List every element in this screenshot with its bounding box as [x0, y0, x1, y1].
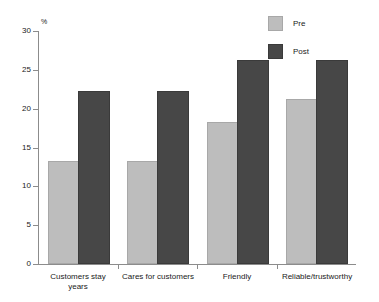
legend-label-pre: Pre [293, 20, 305, 28]
legend-label-post: Post [293, 48, 309, 56]
y-tick-mark [33, 148, 39, 149]
y-tick-label: 5 [0, 221, 31, 229]
legend-item-post: Post [268, 44, 309, 59]
y-tick-label: 15 [0, 144, 31, 152]
chart-legend: Pre Post [268, 16, 309, 72]
x-tick-mark [277, 264, 278, 269]
bar-post-3 [316, 60, 348, 264]
legend-item-pre: Pre [268, 16, 309, 31]
y-tick-mark [33, 225, 39, 226]
y-tick-mark [33, 186, 39, 187]
y-tick-label: 10 [0, 182, 31, 190]
y-tick-label: 25 [0, 66, 31, 74]
category-label-0: Customers stayyears [38, 272, 118, 292]
category-label-line: Customers stay [38, 272, 118, 282]
bar-post-1 [157, 91, 189, 264]
y-tick-label: 0 [0, 260, 31, 268]
category-label-line: Cares for customers [118, 272, 198, 282]
bar-post-2 [237, 60, 269, 264]
category-label-line: years [38, 282, 118, 292]
bar-pre-2 [207, 122, 239, 264]
plot-area: % 051015202530 Customers stayyearsCares … [0, 0, 379, 302]
bar-pre-1 [127, 161, 159, 264]
legend-swatch-pre-icon [268, 16, 283, 31]
y-tick-mark [33, 264, 39, 265]
y-tick-label: 30 [0, 27, 31, 35]
bar-pre-0 [48, 161, 80, 264]
category-label-line: Reliable/trustworthy [277, 272, 357, 282]
y-tick-mark [33, 31, 39, 32]
y-tick-label: 20 [0, 105, 31, 113]
bar-post-0 [78, 91, 110, 264]
y-tick-mark [33, 70, 39, 71]
y-axis-unit-label: % [41, 18, 47, 25]
legend-swatch-post-icon [268, 44, 283, 59]
y-tick-mark [33, 109, 39, 110]
category-label-line: Friendly [197, 272, 277, 282]
x-tick-mark [197, 264, 198, 269]
category-label-2: Friendly [197, 272, 277, 282]
bar-chart: % 051015202530 Customers stayyearsCares … [0, 0, 379, 302]
x-tick-mark [118, 264, 119, 269]
bar-pre-3 [286, 99, 318, 264]
category-label-3: Reliable/trustworthy [277, 272, 357, 282]
category-label-1: Cares for customers [118, 272, 198, 282]
